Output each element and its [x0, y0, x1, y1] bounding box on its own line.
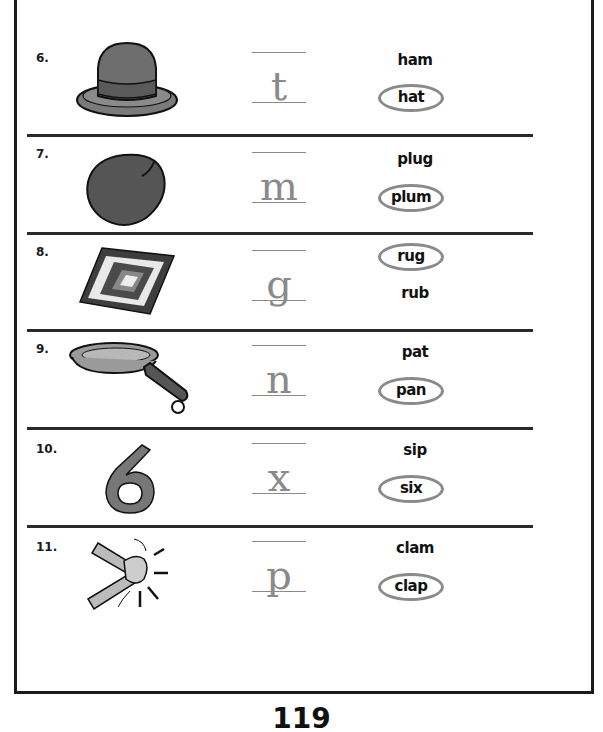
word-choice-circled[interactable]: plum: [378, 184, 444, 212]
trace-letter: x: [252, 457, 306, 497]
clapping-hands-icon: [84, 535, 176, 611]
word-choice[interactable]: plug: [380, 150, 450, 168]
word-choice-circled[interactable]: rug: [378, 243, 444, 271]
plum-icon: [84, 152, 172, 228]
word-choice[interactable]: rub: [380, 284, 450, 302]
rug-icon: [78, 244, 178, 318]
trace-letter: m: [252, 166, 306, 206]
trace-guide-top: [252, 541, 306, 542]
frying-pan-icon: [68, 339, 192, 417]
word-choice-circled[interactable]: hat: [378, 84, 444, 112]
item-row-6: 6. t ham hat: [0, 0, 603, 97]
trace-letter: n: [252, 359, 306, 399]
trace-guide-top: [252, 345, 306, 346]
word-choice[interactable]: sip: [380, 441, 450, 459]
item-number: 6.: [36, 51, 49, 65]
trace-letter: t: [252, 66, 306, 106]
word-choice-circled[interactable]: clap: [378, 573, 444, 601]
word-choice-circled[interactable]: six: [378, 475, 444, 503]
word-choice[interactable]: pat: [380, 343, 450, 361]
item-number: 11.: [36, 540, 57, 554]
trace-letter: p: [252, 555, 306, 595]
hat-icon: [72, 38, 184, 124]
page-number: 119: [0, 702, 603, 732]
item-row-11: 11. p clam clap: [0, 527, 603, 624]
item-row-7: 7. m plug plum: [0, 136, 603, 233]
word-choice[interactable]: ham: [380, 51, 450, 69]
word-choice[interactable]: clam: [380, 539, 450, 557]
trace-letter: g: [252, 264, 306, 304]
trace-guide-top: [252, 52, 306, 53]
item-number: 10.: [36, 442, 57, 456]
trace-guide-top: [252, 152, 306, 153]
item-number: 8.: [36, 245, 49, 259]
item-number: 9.: [36, 342, 49, 356]
item-row-9: 9. n pat pan: [0, 331, 603, 428]
trace-guide-top: [252, 250, 306, 251]
trace-guide-top: [252, 443, 306, 444]
word-choice-circled[interactable]: pan: [378, 377, 444, 405]
item-row-10: 10. x sip six: [0, 429, 603, 526]
item-number: 7.: [36, 147, 49, 161]
item-row-8: 8. g rug rub: [0, 234, 603, 331]
number-six-icon: [102, 441, 158, 517]
